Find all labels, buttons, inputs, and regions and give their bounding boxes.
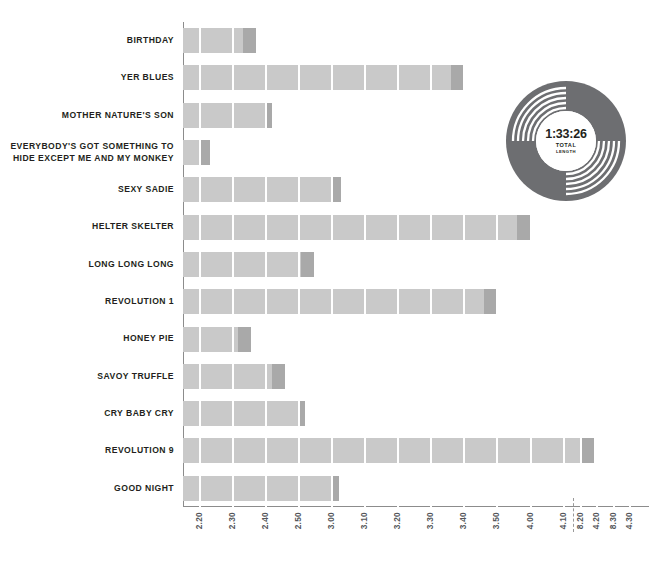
x-axis-tick-labels: 2.202.302.402.503.003.103.203.303.403.50…	[0, 506, 653, 566]
bar-container	[183, 103, 272, 128]
bar-row: GOOD NIGHT	[183, 470, 653, 507]
x-axis-tick-label: 3.10	[359, 512, 369, 529]
bar-container	[183, 215, 530, 240]
bar	[183, 289, 497, 314]
bar-partial-segment	[301, 252, 314, 277]
x-axis-tick-label: 4.00	[525, 512, 535, 529]
x-axis-tick-label: 3.50	[491, 512, 501, 529]
x-axis-tick-label: 3.00	[326, 512, 336, 529]
bar-partial-segment	[331, 177, 341, 202]
x-axis-tick-label: 8.20	[575, 512, 585, 529]
bar-container	[183, 476, 339, 501]
bar-container	[183, 327, 251, 352]
bar-row-label: HONEY PIE	[0, 333, 174, 344]
total-length-caption-line1: TOTAL	[556, 143, 577, 149]
bar	[183, 327, 251, 352]
bar-container	[183, 289, 497, 314]
bar-row-label: BIRTHDAY	[0, 35, 174, 46]
bar-row: HELTER SKELTER	[183, 208, 653, 245]
bar	[183, 177, 341, 202]
x-axis-tick-label: 3.40	[458, 512, 468, 529]
bar-row: REVOLUTION 1	[183, 283, 653, 320]
bar-row-label: EVERYBODY'S GOT SOMETHING TO HIDE EXCEPT…	[0, 141, 174, 164]
bar	[183, 28, 256, 53]
bar	[183, 401, 305, 426]
x-axis-tick-label: 3.20	[392, 512, 402, 529]
bar-partial-segment	[243, 28, 256, 53]
x-axis-tick-label: 4.20	[591, 512, 601, 529]
bar-row-label: LONG LONG LONG	[0, 259, 174, 270]
bar	[183, 140, 210, 165]
bar-row-label: SAVOY TRUFFLE	[0, 371, 174, 382]
bar-container	[183, 252, 314, 277]
x-axis-tick-label: 2.30	[227, 512, 237, 529]
bar-partial-segment	[451, 65, 464, 90]
bar	[183, 364, 285, 389]
bar-partial-segment	[199, 140, 210, 165]
record-center-label: 1:33:26 TOTAL LENGTH	[536, 111, 596, 171]
bar-row-label: MOTHER NATURE'S SON	[0, 110, 174, 121]
bar-partial-segment	[265, 103, 272, 128]
bar-partial-segment	[484, 289, 497, 314]
x-axis-tick-label: 2.20	[194, 512, 204, 529]
bar-row: LONG LONG LONG	[183, 246, 653, 283]
bar-row-label: GOOD NIGHT	[0, 483, 174, 494]
bar-partial-segment	[517, 215, 530, 240]
bar-partial-segment	[298, 401, 305, 426]
bar-container	[183, 401, 305, 426]
bar-container	[183, 177, 341, 202]
bar	[183, 252, 314, 277]
bar	[183, 215, 530, 240]
bar-partial-segment	[331, 476, 339, 501]
bar-row: HONEY PIE	[183, 320, 653, 357]
total-length-caption-line2: LENGTH	[556, 150, 576, 154]
bar-row: REVOLUTION 9	[183, 432, 653, 469]
bar-partial-segment	[238, 327, 251, 352]
total-length-value: 1:33:26	[545, 128, 587, 141]
bar-partial-segment	[581, 438, 594, 463]
x-axis-tick-label: 3.30	[425, 512, 435, 529]
bar-row-label: SEXY SADIE	[0, 184, 174, 195]
bar	[183, 65, 464, 90]
bar-row-label: CRY BABY CRY	[0, 408, 174, 419]
bar	[183, 103, 272, 128]
vinyl-record-badge: 1:33:26 TOTAL LENGTH	[505, 80, 627, 202]
bar-row: BIRTHDAY	[183, 22, 653, 59]
bar-container	[183, 28, 256, 53]
bar	[183, 438, 594, 463]
x-axis-tick-label: 4.10	[558, 512, 568, 529]
bar-partial-segment	[272, 364, 285, 389]
bar-row-label: HELTER SKELTER	[0, 221, 174, 232]
horizontal-bar-chart: BIRTHDAYYER BLUESMOTHER NATURE'S SONEVER…	[0, 0, 653, 572]
bar-row: SAVOY TRUFFLE	[183, 358, 653, 395]
bar	[183, 476, 339, 501]
bar-row-label: REVOLUTION 1	[0, 296, 174, 307]
bar-container	[183, 438, 594, 463]
bar-row-label: YER BLUES	[0, 72, 174, 83]
x-axis-tick-label: 8.30	[608, 512, 618, 529]
x-axis-tick-label: 2.40	[260, 512, 270, 529]
bar-container	[183, 65, 464, 90]
bar-row-label: REVOLUTION 9	[0, 445, 174, 456]
x-axis-tick-label: 4.30	[624, 512, 634, 529]
x-axis-tick-label: 2.50	[293, 512, 303, 529]
bar-container	[183, 140, 210, 165]
bar-row: CRY BABY CRY	[183, 395, 653, 432]
bar-container	[183, 364, 285, 389]
